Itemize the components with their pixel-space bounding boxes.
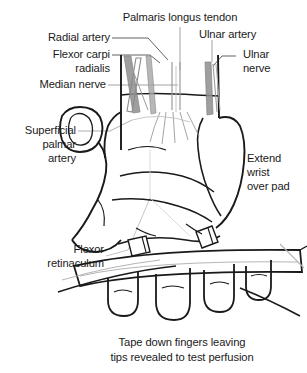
palm-crease-thenar	[128, 147, 166, 151]
tape-tab-left	[128, 236, 150, 256]
label-median-nerve: Median nerve	[2, 78, 106, 91]
label-flexor-retinaculum-line1: Flexor	[0, 243, 104, 256]
palm-fan-crease-3	[173, 112, 175, 143]
hand-left-boundary	[104, 112, 121, 158]
label-extend-wrist-line2: wrist	[247, 166, 307, 179]
thenar-inner-crease	[98, 200, 104, 226]
label-superficial-palmar-artery-line1: Superficial	[0, 124, 76, 137]
fingertip-index-nail	[114, 290, 132, 292]
fingertip-middle-nail	[162, 286, 184, 288]
tape-strip-tail	[300, 246, 307, 250]
caption-line-2: tips revealed to test perfusion	[82, 351, 282, 364]
thenar-web-line	[72, 143, 106, 240]
palm	[112, 112, 245, 236]
palm-crease-distal	[120, 172, 214, 192]
palm-crease-proximal	[112, 199, 212, 222]
hypothenar-inner-edge	[198, 118, 221, 216]
label-radial-artery: Radial artery	[6, 31, 110, 44]
wrist-tendon-group	[124, 56, 220, 115]
palm-fan-crease-4	[180, 112, 188, 140]
finger-sep-1	[136, 228, 156, 236]
label-extend-wrist-line3: over pad	[247, 180, 307, 193]
label-ulnar-nerve-line1: Ulnar	[243, 48, 305, 61]
tape-tab-right	[196, 226, 218, 248]
anatomy-figure: Radial artery Flexor carpi radialis Medi…	[0, 0, 307, 373]
leader-superficial-palmar-artery	[78, 120, 132, 131]
label-superficial-palmar-artery-line2: palmar	[0, 138, 76, 151]
finger-sep-2	[186, 224, 202, 234]
label-extend-wrist-line1: Extend	[247, 152, 307, 165]
label-superficial-palmar-artery-line3: artery	[0, 152, 76, 165]
label-flexor-retinaculum-line2: retinaculum	[0, 257, 104, 270]
fingertip-little-nail	[251, 275, 267, 277]
label-flexor-carpi-radialis-line2: radialis	[6, 62, 110, 75]
caption-line-1: Tape down fingers leaving	[92, 336, 272, 349]
hypothenar-outline	[216, 117, 245, 228]
ulnar-artery-vessel	[205, 62, 213, 115]
label-flexor-carpi-radialis-line1: Flexor carpi	[6, 48, 110, 61]
fingertip-ring-nail	[210, 282, 229, 284]
label-ulnar-artery: Ulnar artery	[199, 28, 299, 41]
label-ulnar-nerve-line2: nerve	[243, 62, 305, 75]
palm-fan-crease-5	[187, 112, 199, 136]
forearm-and-wrist	[104, 55, 219, 158]
label-palmaris-longus-tendon: Palmaris longus tendon	[104, 11, 256, 24]
